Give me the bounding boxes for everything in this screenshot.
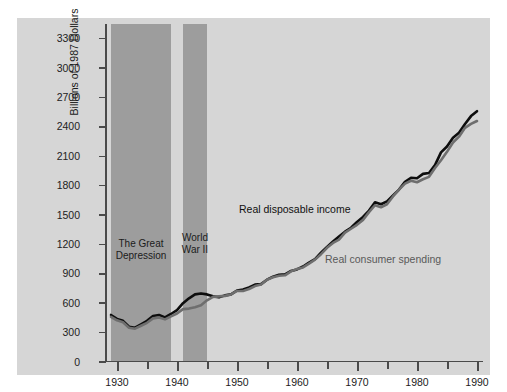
plot-area: 0300600900120015001800210024002700300033…	[88, 22, 484, 366]
y-tick-label: 600	[40, 298, 80, 309]
x-tick-label: 1960	[274, 376, 320, 388]
cut-off-caption	[18, 0, 318, 11]
y-tick-label: 0	[40, 357, 80, 368]
era-band-label-great-depression: The Great Depression	[106, 238, 176, 262]
chart-figure: 0300600900120015001800210024002700300033…	[0, 0, 507, 392]
series-lines	[88, 22, 484, 366]
series-line-real-disposable-income	[111, 111, 477, 328]
series-line-real-consumer-spending	[111, 121, 477, 329]
x-tick-label: 1970	[334, 376, 380, 388]
y-tick-label: 1800	[40, 180, 80, 191]
x-tick-label: 1940	[154, 376, 200, 388]
y-tick-label: 1200	[40, 239, 80, 250]
figure-panel: 0300600900120015001800210024002700300033…	[17, 18, 490, 375]
series-label-real-consumer-spending: Real consumer spending	[325, 253, 441, 265]
y-tick-label: 1500	[40, 210, 80, 221]
era-band-label-world-war-ii: World War II	[174, 232, 216, 256]
y-tick-label: 300	[40, 327, 80, 338]
x-tick-label: 1930	[94, 376, 140, 388]
y-axis-title: Billions of 1987 Dollars	[68, 0, 80, 142]
y-tick-label: 2100	[40, 151, 80, 162]
x-tick-label: 1950	[214, 376, 260, 388]
series-label-real-disposable-income: Real disposable income	[239, 203, 350, 215]
x-tick-label: 1990	[454, 376, 500, 388]
y-tick-label: 900	[40, 268, 80, 279]
x-tick-label: 1980	[394, 376, 440, 388]
